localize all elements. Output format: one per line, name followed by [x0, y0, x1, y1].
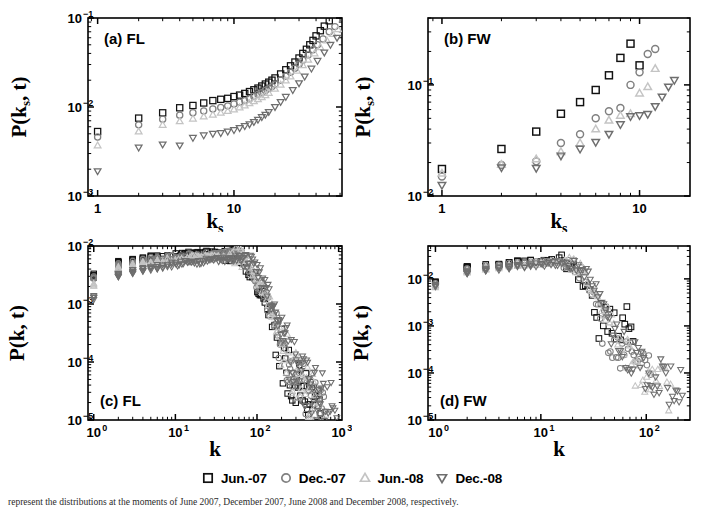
svg-text:10: 10: [408, 272, 422, 287]
axis-tick-label: 10−1: [68, 9, 94, 26]
legend-entry-Dec.-07: Dec.-07: [279, 471, 346, 486]
series-Jun.-07: [438, 40, 643, 172]
data-point-triangle-down: [254, 263, 260, 268]
data-series-group: [432, 252, 685, 413]
data-point-triangle-down: [644, 111, 652, 118]
data-point-triangle-down: [666, 402, 672, 407]
data-point-square: [601, 323, 607, 329]
svg-text:10: 10: [68, 100, 82, 115]
data-point-triangle-up: [190, 115, 197, 121]
panel-tag: (a) FL: [104, 30, 145, 47]
svg-text:10: 10: [227, 201, 241, 216]
axis-tick-label: 10−2: [408, 187, 434, 204]
data-point-square: [177, 105, 183, 111]
data-point-triangle-down: [634, 350, 640, 355]
svg-text:−2: −2: [423, 270, 433, 280]
axis-tick-label: 102: [250, 423, 271, 440]
y-axis-label: P(ks, t): [352, 76, 377, 137]
axis-tick-label: 10: [632, 201, 646, 216]
data-point-square: [204, 474, 212, 482]
svg-text:−1: −1: [423, 76, 433, 86]
data-point-triangle-down: [135, 145, 142, 151]
data-point-triangle-down: [651, 104, 659, 111]
series-Dec.-07: [438, 46, 658, 180]
panel-tag: (d) FW: [440, 392, 487, 409]
data-point-circle: [652, 46, 659, 53]
svg-text:P(ks, t): P(ks, t): [7, 76, 33, 137]
data-point-square: [225, 95, 231, 101]
data-point-square: [557, 110, 564, 117]
data-point-square: [620, 315, 626, 321]
legend-entry-Dec.-08: Dec.-08: [435, 471, 502, 486]
axis-tick-label: 10: [227, 201, 241, 216]
data-point-square: [596, 336, 602, 342]
svg-text:−5: −5: [423, 411, 433, 421]
chart-panel-d: 10010110210−510−410−310−2P(k, t)k(d) FW: [352, 228, 703, 466]
axis-tick-label: 101: [534, 423, 555, 440]
data-point-triangle-down: [217, 131, 224, 137]
svg-text:10: 10: [331, 425, 345, 440]
data-point-triangle-down: [301, 74, 308, 80]
data-point-triangle-down: [314, 58, 321, 64]
panel-b-canvas: 11010−210−1P(ks, t)ks(b) FW: [352, 0, 703, 232]
y-axis-label: P(k, t): [352, 305, 373, 361]
data-point-triangle-down: [658, 94, 666, 101]
data-point-circle: [597, 316, 603, 322]
data-point-triangle-down: [289, 88, 296, 94]
axis-tick-label: 10−3: [68, 187, 94, 204]
data-point-triangle-up: [94, 142, 101, 148]
data-point-square: [636, 62, 643, 69]
data-point-square: [624, 304, 630, 310]
data-point-triangle-down: [438, 475, 447, 483]
data-point-triangle-down: [236, 126, 243, 132]
x-axis-label: k: [553, 437, 565, 461]
data-point-circle: [577, 131, 584, 138]
data-point-triangle-down: [658, 357, 664, 362]
data-point-triangle-down: [668, 364, 674, 369]
data-point-square: [210, 98, 216, 104]
data-point-square: [605, 72, 612, 79]
data-point-triangle-down: [334, 35, 341, 41]
svg-text:10: 10: [68, 11, 82, 26]
figure-caption: represent the distributions at the momen…: [0, 496, 703, 508]
svg-text:−1: −1: [83, 9, 93, 19]
svg-text:10: 10: [250, 425, 264, 440]
data-point-triangle-down: [200, 133, 207, 139]
svg-text:1: 1: [438, 201, 445, 216]
svg-text:P(ks, t): P(ks, t): [352, 76, 377, 137]
axis-tick-label: 103: [331, 423, 352, 440]
svg-text:10: 10: [408, 189, 422, 204]
data-point-triangle-down: [532, 165, 540, 172]
axis-tick-label: 100: [87, 423, 108, 440]
svg-text:10: 10: [534, 425, 548, 440]
axis-tick-label: 101: [168, 423, 189, 440]
data-point-square: [592, 86, 599, 93]
svg-text:10: 10: [632, 201, 646, 216]
legend-label: Dec.-08: [455, 471, 502, 486]
svg-text:10: 10: [408, 78, 422, 93]
svg-text:1: 1: [549, 423, 554, 433]
svg-text:10: 10: [68, 239, 82, 254]
data-point-triangle-up: [651, 65, 659, 72]
square-icon: [201, 471, 215, 485]
figure-legend: Jun.-07Dec.-07Jun.-08Dec.-08: [0, 466, 703, 490]
data-point-triangle-down: [671, 78, 679, 85]
svg-text:2: 2: [266, 423, 271, 433]
data-point-triangle-down: [224, 129, 231, 135]
data-point-circle: [605, 108, 612, 115]
svg-text:−2: −2: [423, 187, 433, 197]
data-point-triangle-down: [585, 269, 591, 274]
svg-text:−4: −4: [83, 353, 93, 363]
circle-icon: [279, 471, 293, 485]
data-point-triangle-up: [592, 125, 600, 132]
data-point-circle: [625, 346, 631, 352]
data-point-triangle-up: [666, 408, 672, 413]
data-point-triangle-up: [209, 111, 216, 117]
svg-text:0: 0: [444, 423, 449, 433]
svg-text:10: 10: [408, 366, 422, 381]
data-point-triangle-down: [576, 146, 584, 153]
data-point-triangle-down: [656, 391, 662, 396]
data-point-triangle-down: [608, 342, 614, 347]
svg-text:10: 10: [408, 413, 422, 428]
svg-text:−3: −3: [83, 187, 93, 197]
